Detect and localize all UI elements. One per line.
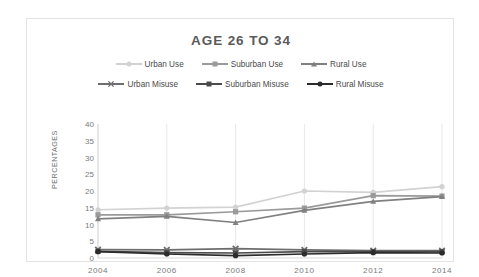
legend-label-suburban-use: Suburban Use xyxy=(231,60,283,69)
chart-legend-row-1: Urban Use Suburban Use Rural Use xyxy=(27,59,455,69)
legend-label-suburban-misuse: Suburban Misuse xyxy=(225,80,289,89)
data-point xyxy=(233,253,238,258)
data-point xyxy=(439,184,444,189)
legend-key-rural-misuse xyxy=(307,79,333,89)
legend-label-rural-use: Rural Use xyxy=(330,60,366,69)
square-marker-icon xyxy=(212,62,217,67)
legend-item-urban-misuse[interactable]: Urban Misuse xyxy=(98,79,178,89)
series-urban-use xyxy=(95,184,444,212)
x-tick-label: 2010 xyxy=(294,266,314,275)
x-tick-label: 2014 xyxy=(432,266,452,275)
chart-legend-row-2: Urban Misuse Suburban Misuse Rural Misus… xyxy=(27,79,455,89)
legend-item-suburban-use[interactable]: Suburban Use xyxy=(202,59,283,69)
legend-item-rural-misuse[interactable]: Rural Misuse xyxy=(307,79,384,89)
circle-marker-icon xyxy=(126,62,131,67)
legend-item-urban-use[interactable]: Urban Use xyxy=(116,59,184,69)
legend-item-rural-use[interactable]: Rural Use xyxy=(301,59,366,69)
series-suburban-use xyxy=(95,193,444,217)
x-tick-label: 2004 xyxy=(88,266,108,275)
data-point xyxy=(302,188,307,193)
data-point xyxy=(95,249,100,254)
chart-frame: AGE 26 TO 34 Urban Use Suburban Use xyxy=(26,18,454,262)
square-marker-icon xyxy=(207,82,212,87)
series-line xyxy=(98,249,442,251)
x-tick-label: 2012 xyxy=(363,266,383,275)
circle-marker-icon xyxy=(317,82,322,87)
legend-label-urban-use: Urban Use xyxy=(145,60,184,69)
data-point xyxy=(164,251,169,256)
legend-key-suburban-use xyxy=(202,59,228,69)
plot-area: PERCENTAGES 0510152025303540 20042006200… xyxy=(27,97,455,263)
x-tick-label: 2008 xyxy=(225,266,245,275)
chart-plot-svg xyxy=(27,97,455,263)
data-point xyxy=(302,251,307,256)
triangle-marker-icon xyxy=(311,62,317,67)
legend-key-suburban-misuse xyxy=(196,79,222,89)
data-point xyxy=(371,250,376,255)
legend-item-suburban-misuse[interactable]: Suburban Misuse xyxy=(196,79,289,89)
x-tick-label: 2006 xyxy=(157,266,177,275)
legend-label-rural-misuse: Rural Misuse xyxy=(336,80,384,89)
x-marker-icon xyxy=(108,81,115,88)
series-line xyxy=(98,187,442,210)
data-point xyxy=(371,193,376,198)
data-point xyxy=(439,250,444,255)
legend-key-rural-use xyxy=(301,59,327,69)
legend-label-urban-misuse: Urban Misuse xyxy=(127,80,178,89)
data-point xyxy=(95,207,100,212)
chart-title: AGE 26 TO 34 xyxy=(27,33,455,48)
legend-key-urban-use xyxy=(116,59,142,69)
data-point xyxy=(164,205,169,210)
chart-figure: AGE 26 TO 34 Urban Use Suburban Use xyxy=(0,0,479,277)
data-point xyxy=(233,209,238,214)
legend-key-urban-misuse xyxy=(98,79,124,89)
data-point xyxy=(233,204,238,209)
